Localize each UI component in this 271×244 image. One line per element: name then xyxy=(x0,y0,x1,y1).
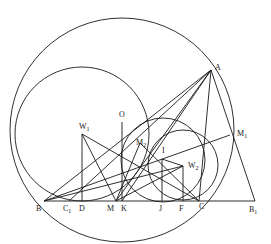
line-a-c xyxy=(199,70,211,201)
label-c1: C1 xyxy=(63,204,71,214)
label-k: K xyxy=(121,204,127,213)
label-b1: B1 xyxy=(249,205,257,215)
label-j: J xyxy=(159,204,162,213)
diagram-svg: A B C1 D M K J F C B1 O W1 W2 I M1 M2 xyxy=(0,0,271,244)
label-w2: W2 xyxy=(188,161,199,171)
label-i: I xyxy=(162,146,165,155)
label-m2: M2 xyxy=(136,138,146,148)
label-f: F xyxy=(179,204,184,213)
line-a-b xyxy=(44,70,211,201)
label-o: O xyxy=(119,110,125,119)
label-b: B xyxy=(36,204,41,213)
line-i-w2 xyxy=(162,159,183,166)
line-w2-m xyxy=(116,166,183,201)
label-m1: M1 xyxy=(237,129,247,139)
label-c: C xyxy=(199,202,204,211)
line-a-c1 xyxy=(69,70,211,201)
label-w1: W1 xyxy=(79,122,90,132)
label-a: A xyxy=(215,63,221,72)
geometry-figure: A B C1 D M K J F C B1 O W1 W2 I M1 M2 xyxy=(0,0,271,244)
label-d: D xyxy=(79,204,85,213)
label-m: M xyxy=(107,204,114,213)
line-a-b1 xyxy=(211,70,255,201)
